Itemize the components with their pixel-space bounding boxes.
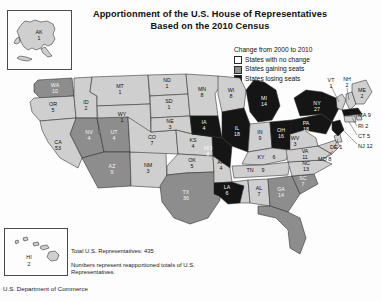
state-AZ (82, 152, 131, 188)
label-MO-seats: 8 (207, 151, 210, 157)
title-line-1: Apportionment of the U.S. House of Repre… (85, 9, 335, 21)
label-WA-seats: 10 (52, 88, 58, 94)
label-IL-seats: 18 (234, 131, 240, 137)
state-NC (288, 160, 332, 176)
alaska-seats: 1 (38, 35, 41, 41)
state-VT (336, 94, 346, 110)
state-NJ (332, 120, 344, 136)
label-LA-seats: 6 (226, 190, 229, 196)
explanatory-note: Numbers represent reapportioned totals o… (71, 262, 201, 277)
label-TX-seats: 36 (183, 195, 189, 201)
side-label-CT: CT 5 (358, 133, 370, 139)
label-OR-seats: 5 (52, 107, 55, 113)
state-TX (160, 172, 220, 224)
legend-swatch-no-change-icon (234, 56, 242, 64)
label-VT-seats: 1 (330, 83, 333, 89)
label-NM-seats: 3 (147, 168, 150, 174)
label-FL-seats: 27 (282, 233, 288, 239)
label-NH-seats: 2 (346, 82, 349, 88)
label-AR-seats: 4 (220, 165, 223, 171)
label-NE-seats: 3 (169, 124, 172, 130)
label-ME-seats: 2 (361, 93, 364, 99)
label-OK-seats: 5 (191, 163, 194, 169)
label-KS-seats: 4 (192, 143, 195, 149)
source-credit: U.S. Department of Commerce (3, 285, 88, 292)
title-line-2: Based on the 2010 Census (85, 21, 335, 33)
label-ID-seats: 2 (85, 105, 88, 111)
legend-heading: Change from 2000 to 2010 (234, 46, 312, 54)
page-title: Apportionment of the U.S. House of Repre… (85, 9, 335, 32)
label-KY-abbr: KY (257, 154, 265, 160)
label-MN-seats: 8 (201, 92, 204, 98)
label-AL-seats: 7 (258, 191, 261, 197)
label-IN-seats: 9 (259, 135, 262, 141)
label-MS-seats: 4 (239, 190, 242, 196)
label-WI-seats: 8 (230, 93, 233, 99)
label-IA-seats: 4 (203, 125, 206, 131)
label-GA-seats: 14 (278, 192, 284, 198)
apportionment-map-figure: Apportionment of the U.S. House of Repre… (0, 0, 381, 301)
label-WV-seats: 3 (294, 141, 297, 147)
label-UT-seats: 4 (113, 135, 116, 141)
us-map: WA 10 OR 5 CA 53 NV 4 ID 2 MT 1 WY 1 UT … (0, 72, 381, 272)
legend-label-no-change: States with no change (245, 56, 310, 64)
label-OH-seats: 16 (278, 133, 284, 139)
label-MT-seats: 1 (119, 89, 122, 95)
label-WY-seats: 1 (121, 117, 124, 123)
total-representatives-note: Total U.S. Representatives: 435 (71, 248, 154, 255)
label-TN-abbr: TN (246, 167, 253, 173)
side-label-NJ: NJ 12 (358, 143, 373, 149)
side-label-MD: MD 8 (318, 156, 331, 162)
label-KY-seats: 6 (273, 154, 276, 160)
label-ND-seats: 1 (166, 83, 169, 89)
side-label-MA: MA 9 (358, 112, 371, 118)
label-TN-seats: 9 (262, 167, 265, 173)
alaska-inset: AK 1 (7, 10, 72, 70)
label-NY-seats: 27 (314, 106, 320, 112)
label-NC-seats: 13 (303, 166, 309, 172)
label-NV-seats: 4 (88, 135, 91, 141)
leader-NJ (341, 128, 357, 144)
label-CA-seats: 53 (55, 145, 61, 151)
side-label-DE: DE 1 (330, 144, 342, 150)
label-SC-seats: 7 (302, 181, 305, 187)
label-CO-seats: 7 (151, 140, 154, 146)
label-VA-seats: 11 (302, 154, 308, 160)
label-MI-seats: 14 (261, 101, 267, 107)
label-SD-seats: 1 (168, 104, 171, 110)
legend-item-no-change: States with no change (234, 56, 312, 64)
side-label-RI: RI 2 (358, 123, 368, 129)
label-AZ-seats: 9 (111, 169, 114, 175)
label-PA-seats: 18 (303, 126, 309, 132)
